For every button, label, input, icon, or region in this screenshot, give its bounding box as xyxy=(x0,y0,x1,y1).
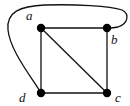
graph-diagram: a b c d xyxy=(0,0,130,106)
node-d xyxy=(37,89,45,97)
label-a: a xyxy=(26,8,33,23)
edge-a-c xyxy=(41,28,107,93)
node-b xyxy=(103,24,111,32)
label-c: c xyxy=(115,90,121,105)
node-a xyxy=(37,24,45,32)
node-c xyxy=(103,89,111,97)
label-d: d xyxy=(19,90,26,105)
label-b: b xyxy=(111,32,118,47)
